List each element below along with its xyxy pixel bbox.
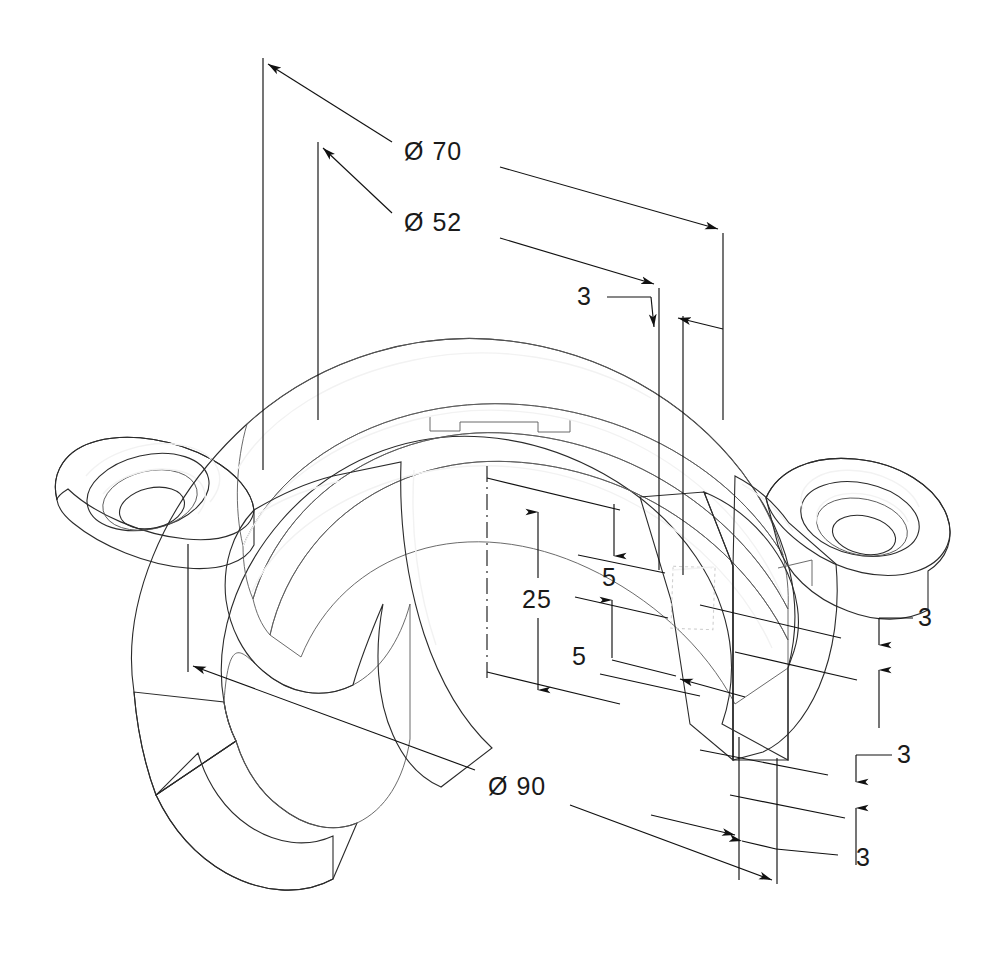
dimension-label-25: 25 <box>522 585 552 613</box>
dimension-label-5-lower: 5 <box>572 642 587 670</box>
dimension-label-3-top: 3 <box>577 282 592 310</box>
dimension-label-dia-70: Ø 70 <box>404 137 462 165</box>
dimension-label-5-upper: 5 <box>602 563 617 591</box>
dimension-label-3-bottom: 3 <box>856 843 871 871</box>
dimension-label-3-right-upper: 3 <box>918 603 933 631</box>
technical-drawing-canvas: Ø 70 Ø 52 3 <box>0 0 989 954</box>
cad-isometric-view: Ø 70 Ø 52 3 <box>0 0 989 954</box>
dimension-label-dia-52: Ø 52 <box>404 208 462 236</box>
drawing-background <box>0 0 989 954</box>
dimension-label-3-right-lower: 3 <box>897 740 912 768</box>
dimension-label-dia-90: Ø 90 <box>488 772 546 800</box>
